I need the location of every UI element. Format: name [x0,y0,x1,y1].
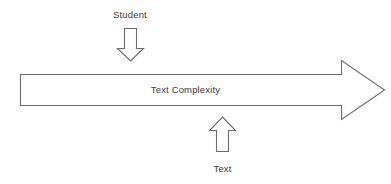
student-label: Student [0,9,260,21]
text-label: Text [120,163,325,175]
text-complexity-label: Text Complexity [0,84,371,96]
text-up-arrow-shape [210,117,236,152]
student-down-arrow-shape [118,29,144,62]
diagram-canvas: Student Text Complexity Text [0,0,391,184]
